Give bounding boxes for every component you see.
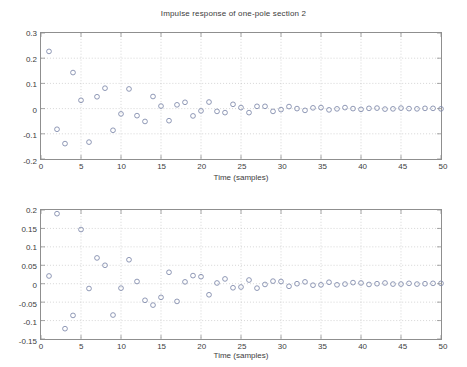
y-tick-label: 0.15: [21, 224, 37, 233]
y-tick-label: 0: [33, 280, 37, 289]
x-tick-label: 50: [439, 342, 448, 351]
y-tick-label: 0.2: [26, 54, 37, 63]
x-tick-label: 20: [197, 342, 206, 351]
x-tick-label: 30: [278, 162, 287, 171]
x-tick-label: 40: [358, 162, 367, 171]
y-tick-label: 0.3: [26, 29, 37, 38]
y-tick-label: 0.1: [26, 80, 37, 89]
y-tick-label: 0.2: [26, 206, 37, 215]
y-tick-label: -0.1: [23, 131, 37, 140]
page-title: Impulse response of one-pole section 2: [0, 9, 467, 18]
x-tick-label: 15: [157, 162, 166, 171]
tick-marks-real: [41, 33, 441, 159]
y-tick-label: -0.2: [23, 157, 37, 166]
y-tick-label: 0: [33, 105, 37, 114]
y-tick-label: -0.1: [23, 318, 37, 327]
x-axis-label-imag: Time (samples): [40, 351, 442, 360]
x-tick-label: 30: [278, 342, 287, 351]
x-tick-label: 50: [439, 162, 448, 171]
x-tick-label: 0: [39, 162, 43, 171]
x-tick-label: 15: [157, 342, 166, 351]
x-tick-label: 25: [238, 162, 247, 171]
y-tick-label: 0.05: [21, 262, 37, 271]
tick-marks-imag: [41, 210, 441, 339]
plot-panel-real-part: Impulse response of one-pole section 2 R…: [0, 0, 467, 190]
x-tick-label: 45: [398, 342, 407, 351]
x-tick-label: 35: [318, 342, 327, 351]
y-tick-label: -0.05: [19, 299, 37, 308]
x-tick-label: 45: [398, 162, 407, 171]
x-tick-label: 35: [318, 162, 327, 171]
axes-real-part: -0.2-0.100.10.20.3 05101520253035404550: [40, 32, 442, 160]
x-tick-label: 0: [39, 342, 43, 351]
x-tick-label: 5: [79, 162, 83, 171]
plot-panel-imag-part: Imag part Time (samples) -0.15-0.1-0.050…: [0, 190, 467, 367]
y-tick-label: -0.15: [19, 337, 37, 346]
x-tick-label: 10: [117, 342, 126, 351]
matlab-figure: Impulse response of one-pole section 2 R…: [0, 0, 467, 367]
x-tick-label: 5: [79, 342, 83, 351]
x-tick-label: 40: [358, 342, 367, 351]
y-tick-label: 0.1: [26, 243, 37, 252]
x-tick-label: 20: [197, 162, 206, 171]
x-tick-label: 10: [117, 162, 126, 171]
x-axis-label-real: Time (samples): [40, 173, 442, 182]
axes-imag-part: -0.15-0.1-0.0500.050.10.150.2 0510152025…: [40, 209, 442, 340]
x-tick-label: 25: [238, 342, 247, 351]
